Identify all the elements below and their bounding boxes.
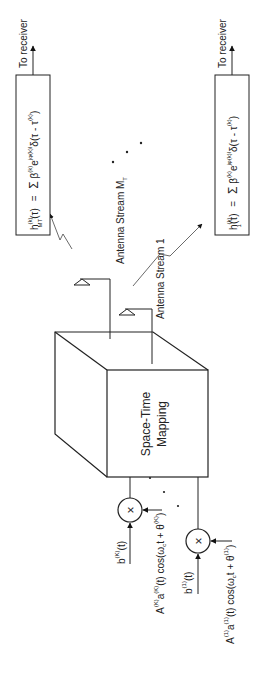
ellipsis-dot xyxy=(163,491,165,493)
antenna-stream-mt: Antenna Stream MT xyxy=(50,177,128,339)
ellipsis-dot xyxy=(177,505,179,507)
antenna-1-icon xyxy=(119,309,135,315)
antenna-1-label: Antenna Stream 1 xyxy=(155,238,166,319)
diagram-canvas: Space-Time Mapping Antenna Stream MT Ant… xyxy=(0,0,263,674)
ellipsis-dot xyxy=(140,142,142,144)
block-label-line2: Mapping xyxy=(155,401,169,447)
data-signal-k: b(K)(t) xyxy=(114,541,127,564)
antenna-mt-label: Antenna Stream MT xyxy=(115,177,128,264)
antenna-mt-icon xyxy=(74,279,90,285)
input-branch-k: × b(K)(t) A(K)a(K)(t) cos(ωct + θ(K)) xyxy=(114,477,167,614)
antenna-stream-1: Antenna Stream 1 xyxy=(119,224,202,364)
ellipsis-dot xyxy=(149,477,151,479)
to-receiver-mt: To receiver xyxy=(18,18,29,68)
channel-box-1: h(k)1(τ) = Σ β(k)ejφ(k)lδ(τ - τ(k)) To r… xyxy=(215,18,249,235)
input-branch-1: × b(1)(t) A(1)a(1)(t) cos(ωct + θ(1)) xyxy=(181,477,237,644)
carrier-signal-1: A(1)a(1)(t) cos(ωct + θ(1)) xyxy=(223,545,237,644)
channel-box-mt: h(k)MT(τ) = Σ β(k)ejφ(k)lδ(τ - τ(k)) To … xyxy=(16,18,50,235)
block-label-line1: Space-Time xyxy=(139,392,153,457)
carrier-signal-k: A(K)a(K)(t) cos(ωct + θ(K)) xyxy=(153,513,167,614)
to-receiver-1: To receiver xyxy=(217,18,228,68)
ellipsis-dot xyxy=(112,161,114,163)
data-signal-1: b(1)(t) xyxy=(181,572,194,594)
ellipsis-dot xyxy=(126,151,128,153)
multiplier-1-symbol: × xyxy=(192,537,206,544)
multiplier-k-symbol: × xyxy=(124,506,138,513)
space-time-mapping-block: Space-Time Mapping xyxy=(55,332,208,477)
